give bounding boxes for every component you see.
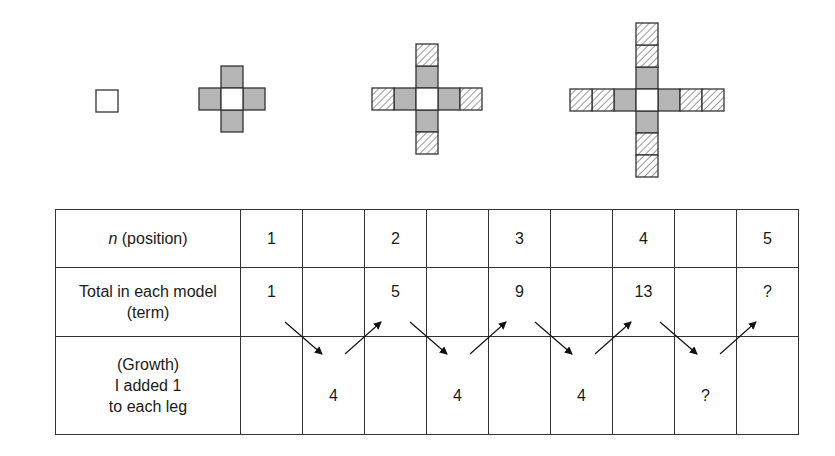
cross-figure-1 (96, 90, 118, 112)
term-cell: 1 (241, 268, 303, 337)
term-row: Total in each model (term) 1 5 9 13 ? (56, 268, 799, 337)
position-label-text: (position) (117, 230, 187, 247)
term-cell (303, 268, 365, 337)
growth-row: (Growth) I added 1 to each leg 4 4 4 ? (56, 337, 799, 435)
hatched-tile (680, 89, 702, 111)
growth-cell: ? (675, 337, 737, 435)
growing-cross-figures (0, 0, 835, 200)
shaded-tile (243, 88, 265, 110)
growth-label-line1: (Growth) (56, 354, 240, 375)
growth-cell (241, 337, 303, 435)
position-cell (675, 210, 737, 268)
position-cell: 3 (489, 210, 551, 268)
shaded-tile (636, 67, 658, 89)
position-row: n (position) 1 2 3 4 5 (56, 210, 799, 268)
hatched-tile (636, 23, 658, 45)
position-cell (551, 210, 613, 268)
cross-figure-2 (199, 66, 265, 132)
hatched-tile (636, 133, 658, 155)
hatched-tile (570, 89, 592, 111)
position-cell (303, 210, 365, 268)
hatched-tile (636, 45, 658, 67)
hatched-tile (636, 155, 658, 177)
position-cell: 5 (737, 210, 799, 268)
shaded-tile (658, 89, 680, 111)
term-label-line1: Total in each model (56, 281, 240, 302)
shaded-tile (416, 66, 438, 88)
center-tile (221, 88, 243, 110)
growth-label-line2: I added 1 (56, 375, 240, 396)
shaded-tile (221, 110, 243, 132)
growth-value: 4 (577, 387, 586, 404)
term-row-label: Total in each model (term) (56, 268, 241, 337)
cross-figure-3 (372, 44, 482, 154)
term-cell: ? (737, 268, 799, 337)
shaded-tile (438, 88, 460, 110)
term-value: ? (763, 283, 772, 300)
cross-figure-4 (570, 23, 724, 177)
term-cell: 13 (613, 268, 675, 337)
shaded-tile (614, 89, 636, 111)
growth-cell: 4 (427, 337, 489, 435)
term-cell (675, 268, 737, 337)
growth-table: n (position) 1 2 3 4 5 Total in each mod… (55, 209, 799, 435)
term-value: 1 (267, 283, 276, 300)
hatched-tile (372, 88, 394, 110)
term-cell (551, 268, 613, 337)
shaded-tile (199, 88, 221, 110)
term-value: 9 (515, 283, 524, 300)
center-tile (96, 90, 118, 112)
center-tile (636, 89, 658, 111)
position-row-label: n (position) (56, 210, 241, 268)
hatched-tile (460, 88, 482, 110)
term-value: 13 (635, 283, 653, 300)
growth-value: 4 (453, 387, 462, 404)
position-cell: 4 (613, 210, 675, 268)
hatched-tile (702, 89, 724, 111)
growth-cell (489, 337, 551, 435)
growth-cell (365, 337, 427, 435)
hatched-tile (416, 132, 438, 154)
hatched-tile (416, 44, 438, 66)
growth-cell (613, 337, 675, 435)
position-cell: 2 (365, 210, 427, 268)
shaded-tile (394, 88, 416, 110)
term-label-line2: (term) (56, 302, 240, 323)
term-cell: 5 (365, 268, 427, 337)
position-cell: 1 (241, 210, 303, 268)
term-value: 5 (391, 283, 400, 300)
growth-cell: 4 (551, 337, 613, 435)
term-cell (427, 268, 489, 337)
position-cell (427, 210, 489, 268)
growth-row-label: (Growth) I added 1 to each leg (56, 337, 241, 435)
growth-value: 4 (329, 387, 338, 404)
growth-value: ? (701, 387, 710, 404)
n-variable: n (108, 230, 117, 247)
growth-cell (737, 337, 799, 435)
center-tile (416, 88, 438, 110)
shaded-tile (636, 111, 658, 133)
shaded-tile (221, 66, 243, 88)
growth-cell: 4 (303, 337, 365, 435)
growth-label-line3: to each leg (56, 396, 240, 417)
shaded-tile (416, 110, 438, 132)
term-cell: 9 (489, 268, 551, 337)
hatched-tile (592, 89, 614, 111)
